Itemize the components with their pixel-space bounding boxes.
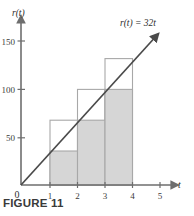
figure-caption: FIGURE 11 bbox=[3, 197, 64, 209]
x-tick-label-3: 3 bbox=[103, 191, 108, 201]
riemann-sum-chart: 1 2 3 4 5 50 100 150 0 r(t) t r(t) = 32t bbox=[0, 0, 194, 216]
function-equation-label: r(t) = 32t bbox=[120, 18, 156, 29]
x-axis-label: t bbox=[178, 180, 181, 190]
lower-sum-bars bbox=[50, 89, 133, 185]
y-tick-label-50: 50 bbox=[6, 133, 16, 143]
y-axis-label: r(t) bbox=[12, 8, 25, 19]
x-tick-label-5: 5 bbox=[158, 191, 163, 201]
lower-bar-3 bbox=[105, 89, 133, 185]
lower-bar-1 bbox=[50, 151, 78, 185]
x-tick-label-4: 4 bbox=[130, 191, 135, 201]
x-tick-label-2: 2 bbox=[75, 191, 80, 201]
y-tick-label-150: 150 bbox=[2, 37, 16, 47]
figure-container: 1 2 3 4 5 50 100 150 0 r(t) t r(t) = 32t… bbox=[0, 0, 194, 216]
lower-bar-2 bbox=[78, 120, 106, 185]
y-tick-label-100: 100 bbox=[2, 85, 16, 95]
